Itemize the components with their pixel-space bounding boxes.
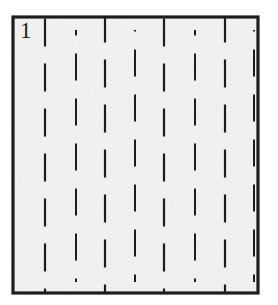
specimen-diagram (0, 0, 278, 305)
figure-root: 1 (0, 0, 278, 305)
panel-number-label: 1 (20, 19, 32, 42)
